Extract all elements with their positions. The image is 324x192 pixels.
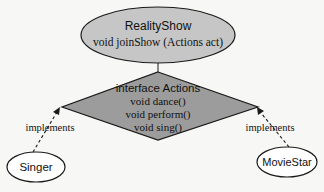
moviestar-arrowhead-icon: [257, 107, 264, 115]
moviestar-edge-label: implements: [246, 122, 295, 133]
actions-method-dance: void dance(): [130, 95, 186, 108]
moviestar-implements-edge: implements: [246, 107, 295, 147]
singer-edge-label: implements: [26, 122, 75, 133]
reality-show-method: void joinShow (Actions act): [93, 36, 223, 49]
actions-interface-title: interface Actions: [116, 82, 201, 94]
reality-show-ellipse: [81, 7, 235, 63]
uml-diagram: RealityShow void joinShow (Actions act) …: [0, 0, 324, 192]
singer-node[interactable]: Singer: [7, 152, 65, 182]
singer-implements-edge: implements: [26, 107, 75, 152]
actions-interface-node[interactable]: interface Actions void dance() void perf…: [62, 72, 258, 140]
moviestar-label: MovieStar: [262, 156, 312, 168]
actions-method-perform: void perform(): [125, 108, 190, 121]
moviestar-node[interactable]: MovieStar: [257, 147, 317, 177]
singer-label: Singer: [19, 161, 52, 173]
actions-method-sing: void sing(): [134, 121, 182, 134]
reality-show-node[interactable]: RealityShow void joinShow (Actions act): [81, 7, 235, 63]
reality-show-title: RealityShow: [125, 19, 192, 33]
